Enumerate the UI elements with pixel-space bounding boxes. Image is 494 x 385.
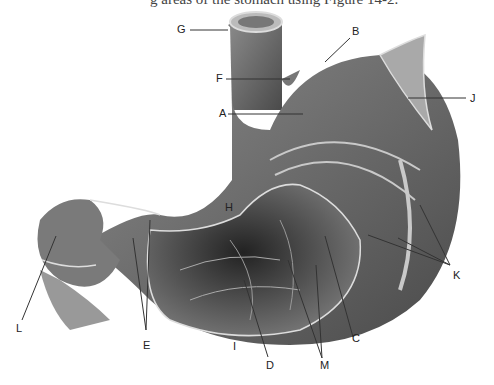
label-f: F	[216, 73, 223, 84]
label-k: K	[453, 270, 460, 281]
label-l: L	[16, 323, 22, 334]
label-d: D	[266, 360, 274, 371]
label-i: I	[233, 341, 236, 352]
label-a: A	[219, 108, 226, 119]
label-b: B	[352, 26, 359, 37]
label-j: J	[470, 93, 476, 104]
stomach-illustration	[0, 0, 494, 385]
label-g: G	[177, 24, 186, 35]
label-m: M	[320, 360, 329, 371]
label-c: C	[352, 333, 360, 344]
label-e: E	[143, 340, 150, 351]
label-h: H	[225, 202, 233, 213]
